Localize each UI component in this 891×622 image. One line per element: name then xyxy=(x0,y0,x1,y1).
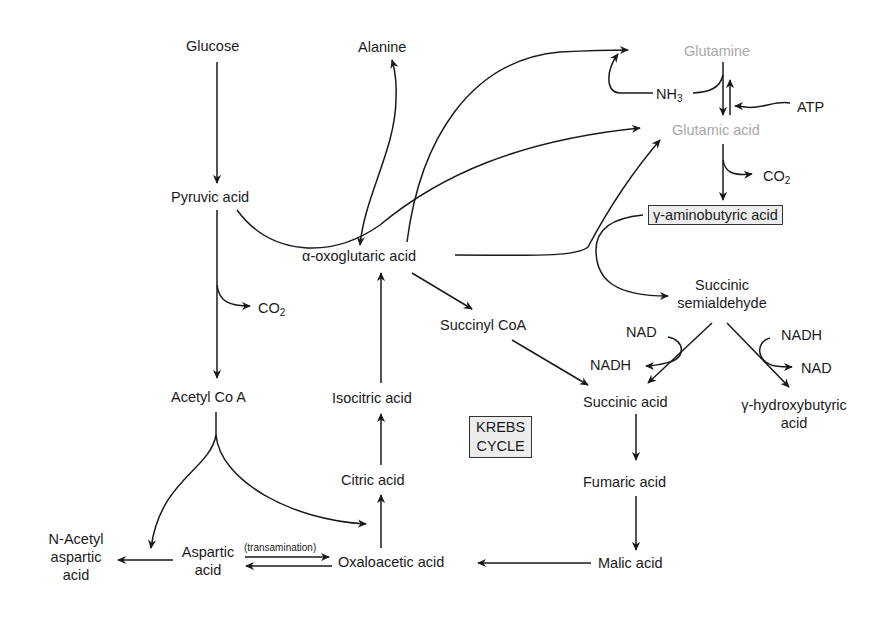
node-gamma-hydroxybutyric-acid: γ-hydroxybutyric acid xyxy=(728,396,860,432)
nh3-subscript: 3 xyxy=(677,93,683,104)
node-co2-glutamic: CO2 xyxy=(763,167,790,185)
krebs-cycle-box: KREBS CYCLE xyxy=(469,416,532,458)
ghb-line1: γ-hydroxybutyric xyxy=(728,396,860,414)
metabolic-pathway-diagram: Glucose Alanine Glutamine NH3 ATP Glutam… xyxy=(0,0,891,622)
label-transamination: (transamination) xyxy=(244,542,316,554)
nacetyl-line3: acid xyxy=(38,566,114,584)
arrow-pyruvic-to-glutamic xyxy=(237,128,640,248)
co2-subscript: 2 xyxy=(280,307,286,318)
arrow-semialdehyde-to-succinic xyxy=(648,323,712,383)
co2-base: CO xyxy=(258,300,280,316)
co2-subscript: 2 xyxy=(785,175,791,186)
node-alpha-oxoglutaric-acid: α-oxoglutaric acid xyxy=(302,247,416,265)
arrow-nh3-to-glutamine xyxy=(609,54,653,93)
node-glutamic-acid: Glutamic acid xyxy=(672,121,760,139)
node-malic-acid: Malic acid xyxy=(598,554,662,572)
semialdehyde-line1: Succinic xyxy=(672,276,772,294)
arrow-nh3-release xyxy=(693,75,723,93)
arrow-atp xyxy=(735,102,790,107)
node-succinic-semialdehyde: Succinic semialdehyde xyxy=(672,276,772,312)
node-pyruvic-acid: Pyruvic acid xyxy=(171,188,249,206)
node-aspartic-acid: Aspartic acid xyxy=(175,543,241,579)
node-n-acetyl-aspartic-acid: N-Acetyl aspartic acid xyxy=(38,530,114,584)
node-gaba: γ-aminobutyric acid xyxy=(648,205,783,225)
cofactor-nad-left: NAD xyxy=(626,323,657,341)
krebs-line1: KREBS xyxy=(476,418,525,437)
arrow-oxoglutaric-to-succinylcoa xyxy=(412,273,472,309)
node-fumaric-acid: Fumaric acid xyxy=(583,473,666,491)
node-nh3: NH3 xyxy=(656,85,683,103)
arrow-oxoglutaric-to-glutamine xyxy=(407,50,628,242)
ghb-line2: acid xyxy=(728,414,860,432)
semialdehyde-line2: semialdehyde xyxy=(672,294,772,312)
node-succinyl-coa: Succinyl CoA xyxy=(440,316,526,334)
co2-base: CO xyxy=(763,168,785,184)
krebs-line2: CYCLE xyxy=(476,437,525,456)
arrow-gaba-to-semialdehyde xyxy=(596,215,668,296)
arrow-glutamic-co2 xyxy=(723,160,752,174)
node-succinic-acid: Succinic acid xyxy=(583,393,668,411)
arrow-acetylcoa-to-aspartic xyxy=(151,435,216,548)
arrow-pyruvic-co2 xyxy=(217,285,250,306)
arrow-semialdehyde-to-ghb xyxy=(727,323,789,387)
arrow-nad-to-nadh xyxy=(646,337,681,366)
node-acetyl-coa: Acetyl Co A xyxy=(171,388,246,406)
node-glutamine: Glutamine xyxy=(684,42,750,60)
node-atp: ATP xyxy=(797,98,824,116)
arrow-succinylcoa-to-succinic xyxy=(512,340,588,385)
node-citric-acid: Citric acid xyxy=(341,471,405,489)
aspartic-line1: Aspartic xyxy=(175,543,241,561)
node-co2-pyruvic: CO2 xyxy=(258,299,285,317)
aspartic-line2: acid xyxy=(175,561,241,579)
nacetyl-line1: N-Acetyl xyxy=(38,530,114,548)
node-isocitric-acid: Isocitric acid xyxy=(332,389,412,407)
cofactor-nad-right: NAD xyxy=(801,359,832,377)
nacetyl-line2: aspartic xyxy=(38,548,114,566)
arrow-oxoglutaric-to-glutamic xyxy=(455,140,660,255)
node-oxaloacetic-acid: Oxaloacetic acid xyxy=(338,553,444,571)
arrow-acetylcoa-to-oxaloacetic xyxy=(216,412,366,524)
node-glucose: Glucose xyxy=(186,37,239,55)
node-alanine: Alanine xyxy=(358,38,406,56)
cofactor-nadh-left: NADH xyxy=(590,356,631,374)
cofactor-nadh-right: NADH xyxy=(781,326,822,344)
nh3-base: NH xyxy=(656,86,677,102)
